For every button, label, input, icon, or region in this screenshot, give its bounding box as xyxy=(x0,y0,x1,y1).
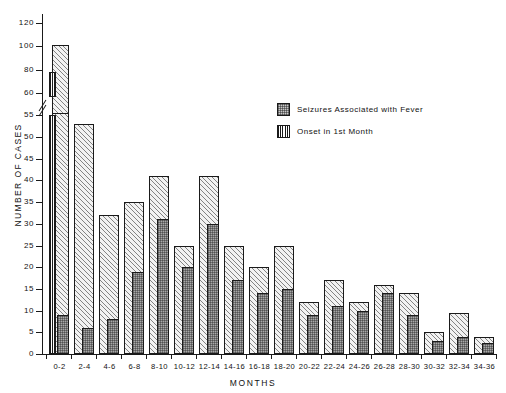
bar-fever xyxy=(282,289,294,354)
x-tick-label: 0-2 xyxy=(46,362,73,371)
bar-group xyxy=(273,14,294,354)
x-tick xyxy=(246,354,247,359)
x-tick xyxy=(321,354,322,359)
bar-fever xyxy=(107,319,119,354)
bar-onset-upper xyxy=(49,72,56,97)
bar-fever xyxy=(307,315,319,354)
bar-fever xyxy=(132,272,144,354)
y-tick-label: 40 xyxy=(4,176,34,184)
bar-group xyxy=(48,14,69,354)
y-tick xyxy=(36,93,42,94)
x-tick-label: 6-8 xyxy=(121,362,148,371)
x-tick xyxy=(371,354,372,359)
y-tick xyxy=(36,202,42,203)
bar-group xyxy=(348,14,369,354)
legend-swatch-onset-icon xyxy=(277,125,290,138)
x-tick xyxy=(421,354,422,359)
x-tick xyxy=(171,354,172,359)
y-tick-label: 45 xyxy=(4,155,34,163)
y-tick-label: 120 xyxy=(4,19,34,27)
y-tick xyxy=(36,70,42,71)
bar-fever xyxy=(482,343,494,354)
y-tick xyxy=(36,311,42,312)
x-tick xyxy=(446,354,447,359)
y-tick xyxy=(36,115,42,116)
y-tick-label: 35 xyxy=(4,198,34,206)
plot-area xyxy=(43,14,497,354)
bar-fever xyxy=(157,219,169,354)
y-tick xyxy=(36,180,42,181)
bar-group xyxy=(323,14,344,354)
y-tick-label: 100 xyxy=(4,42,34,50)
bar-group xyxy=(448,14,469,354)
y-tick xyxy=(36,267,42,268)
x-tick xyxy=(146,354,147,359)
bar-group xyxy=(173,14,194,354)
y-tick-label: 20 xyxy=(4,263,34,271)
bar-fever xyxy=(457,337,469,354)
x-tick xyxy=(271,354,272,359)
bar-group xyxy=(248,14,269,354)
y-tick-label: 10 xyxy=(4,307,34,315)
bar-group xyxy=(298,14,319,354)
bar-group xyxy=(123,14,144,354)
legend-item-fever: Seizures Associated with Fever xyxy=(277,98,492,120)
x-tick-label: 8-10 xyxy=(146,362,173,371)
x-tick-label: 30-32 xyxy=(421,362,448,371)
y-tick-label: 30 xyxy=(4,220,34,228)
x-tick-label: 12-14 xyxy=(196,362,223,371)
x-tick xyxy=(396,354,397,359)
y-tick-label: 55 xyxy=(4,111,34,119)
x-tick-label: 14-16 xyxy=(221,362,248,371)
y-tick xyxy=(36,137,42,138)
bar-fever xyxy=(207,224,219,354)
x-tick xyxy=(121,354,122,359)
y-tick-label: 5 xyxy=(4,328,34,336)
y-tick xyxy=(36,289,42,290)
y-tick-label: 15 xyxy=(4,285,34,293)
bar-fever xyxy=(407,315,419,354)
x-tick-label: 32-34 xyxy=(446,362,473,371)
y-tick xyxy=(36,354,42,355)
y-tick-label: 60 xyxy=(4,89,34,97)
x-tick xyxy=(221,354,222,359)
x-tick xyxy=(196,354,197,359)
bar-group xyxy=(473,14,494,354)
bar-fever xyxy=(432,341,444,354)
x-tick-label: 2-4 xyxy=(71,362,98,371)
x-tick-label: 4-6 xyxy=(96,362,123,371)
x-tick xyxy=(71,354,72,359)
x-tick xyxy=(346,354,347,359)
legend-label-onset: Onset in 1st Month xyxy=(297,127,373,136)
bar-group xyxy=(148,14,169,354)
bar-fever xyxy=(232,280,244,354)
bar-fever xyxy=(182,267,194,354)
y-tick xyxy=(36,159,42,160)
x-tick-label: 22-24 xyxy=(321,362,348,371)
bar-group xyxy=(223,14,244,354)
x-tick-label: 24-26 xyxy=(346,362,373,371)
y-tick xyxy=(36,46,42,47)
bar-fever xyxy=(357,311,369,354)
y-tick xyxy=(36,332,42,333)
x-axis-title: MONTHS xyxy=(0,378,506,388)
bar-fever xyxy=(332,306,344,354)
bar-group xyxy=(98,14,119,354)
legend: Seizures Associated with Fever Onset in … xyxy=(277,98,492,142)
legend-swatch-fever-icon xyxy=(277,103,290,116)
y-tick-label: 0 xyxy=(4,350,34,358)
bar-total xyxy=(74,124,94,354)
x-tick-label: 28-30 xyxy=(396,362,423,371)
bar-fever xyxy=(382,293,394,354)
x-tick-label: 10-12 xyxy=(171,362,198,371)
bar-group xyxy=(373,14,394,354)
x-tick xyxy=(296,354,297,359)
y-tick-label: 50 xyxy=(4,133,34,141)
x-tick xyxy=(496,354,497,359)
bar-fever xyxy=(57,315,69,354)
bar-fever xyxy=(257,293,269,354)
y-tick-label: 80 xyxy=(4,66,34,74)
bar-group xyxy=(398,14,419,354)
bar-onset xyxy=(49,115,56,354)
x-axis-line xyxy=(42,354,497,355)
